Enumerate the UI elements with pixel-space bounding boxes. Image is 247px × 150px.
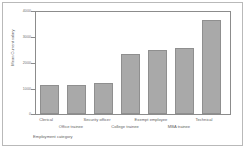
bar-chart-figure: 4000 3000 2000 1000 0 Mean Current salar…	[3, 3, 242, 145]
bar-mba-trainee[interactable]	[175, 48, 194, 114]
bar-office-trainee[interactable]	[67, 85, 86, 114]
y-axis-title: Mean Current salary	[10, 19, 15, 77]
y-tick-label-4000: 4000	[5, 9, 31, 13]
x-tick-label-office-trainee: Office trainee	[49, 124, 93, 129]
y-tick-label-0-wrap: 0	[3, 112, 31, 116]
x-axis-title: Employment category	[33, 134, 73, 139]
y-tick-label-2000-wrap: 2000	[3, 61, 31, 65]
chart-card: 4000 3000 2000 1000 0 Mean Current salar…	[2, 2, 243, 146]
y-tick-label-1000: 1000	[5, 87, 31, 91]
bar-clerical[interactable]	[40, 85, 59, 114]
bars-layer	[36, 12, 230, 114]
y-tick-label-0: 0	[5, 112, 31, 116]
x-tick-label-clerical: Clerical	[25, 117, 67, 122]
y-tick-label-1000-wrap: 1000	[3, 87, 31, 91]
x-tick-label-exempt-employee: Exempt employee	[123, 117, 179, 122]
x-tick-label-college-trainee: College trainee	[102, 124, 148, 129]
bar-technical[interactable]	[202, 20, 221, 114]
y-tick-label-4000-wrap: 4000	[3, 9, 31, 13]
x-tick-label-mba-trainee: MBA trainee	[156, 124, 202, 129]
x-tick-label-security-officer: Security officer	[71, 117, 123, 122]
bar-exempt-employee[interactable]	[148, 50, 167, 114]
bar-security-officer[interactable]	[94, 83, 113, 114]
x-tick-label-technical: Technical	[180, 117, 228, 122]
bar-college-trainee[interactable]	[121, 54, 140, 114]
y-tick-label-3000-wrap: 3000	[3, 35, 31, 39]
